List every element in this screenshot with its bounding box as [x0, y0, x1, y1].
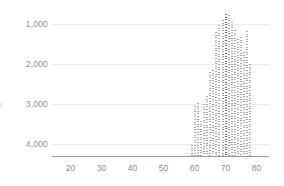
bar: [228, 15, 230, 156]
plot-area: [52, 8, 269, 156]
bar: [206, 96, 208, 156]
x-axis-tick-label: 70: [215, 163, 237, 173]
bar: [246, 31, 248, 156]
bar: [249, 64, 251, 156]
bar: [197, 103, 199, 156]
bar: [194, 106, 196, 156]
x-axis-tick-label: 30: [91, 163, 113, 173]
gridline: [52, 24, 269, 25]
bar: [203, 104, 205, 156]
y-axis-tick-label: 4,000: [2, 139, 48, 149]
bar: [222, 20, 224, 156]
bar: [225, 14, 227, 156]
bar: [240, 37, 242, 156]
x-axis-tick-label: 50: [153, 163, 175, 173]
x-axis-tick-label: 20: [60, 163, 82, 173]
bar: [191, 145, 193, 156]
y-axis-tick-label: 3,000: [2, 99, 48, 109]
bar: [212, 70, 214, 156]
bar: [237, 39, 239, 156]
x-axis-line: [52, 156, 269, 157]
bar: [243, 52, 245, 156]
bar: [218, 25, 220, 156]
x-axis-tick-label: 80: [246, 163, 268, 173]
bar: [215, 32, 217, 156]
bar-chart: 3 1,0002,0003,0004,000 20304050607080: [0, 0, 284, 186]
y-axis-tick-label: 2,000: [2, 59, 48, 69]
bar: [231, 22, 233, 156]
bar: [234, 30, 236, 156]
bar: [209, 72, 211, 156]
bar: [200, 121, 202, 156]
y-axis-tick-label: 1,000: [2, 19, 48, 29]
x-axis-tick-label: 40: [122, 163, 144, 173]
y-axis-tick-labels: 1,0002,0003,0004,000: [0, 0, 48, 186]
x-axis-tick-label: 60: [184, 163, 206, 173]
